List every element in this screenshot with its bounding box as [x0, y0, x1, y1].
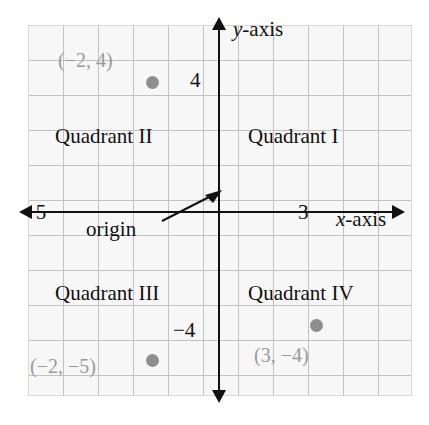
x-axis-label: x-axis: [336, 207, 386, 232]
plotted-point-b: [146, 354, 159, 367]
x-axis-label-suffix: -axis: [345, 207, 386, 231]
origin-label: origin: [86, 217, 136, 242]
plotted-point-c: [310, 319, 323, 332]
quadrant-label-4: Quadrant IV: [248, 281, 354, 306]
y-axis-label-suffix: -axis: [242, 17, 283, 41]
plotted-point-a: [146, 76, 159, 89]
quadrant-label-1: Quadrant I: [248, 124, 338, 149]
coordinate-plane-figure: (−2, 4) (−2, −5) (3, −4) Quadrant II Qua…: [0, 0, 429, 425]
point-label-c: (3, −4): [254, 344, 309, 367]
tick-label-x-negative: −5: [24, 200, 46, 225]
x-axis-label-variable: x: [336, 207, 345, 231]
point-label-a: (−2, 4): [58, 49, 113, 72]
y-axis-arrow-up-icon: [212, 17, 226, 30]
y-axis-label: y-axis: [233, 17, 283, 42]
tick-label-y-positive: 4: [190, 68, 201, 93]
quadrant-label-3: Quadrant III: [55, 281, 159, 306]
quadrant-label-2: Quadrant II: [55, 124, 152, 149]
y-axis-arrow-down-icon: [212, 390, 226, 403]
point-label-b: (−2, −5): [30, 355, 96, 378]
origin-pointer-arrow-icon: [160, 188, 224, 224]
tick-label-y-negative: −4: [173, 318, 195, 343]
tick-label-x-positive: 3: [298, 200, 309, 225]
y-axis-label-variable: y: [233, 17, 242, 41]
x-axis-arrow-right-icon: [392, 205, 405, 219]
